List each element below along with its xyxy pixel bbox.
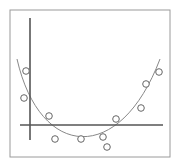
data-points	[21, 68, 163, 151]
data-point	[138, 105, 145, 112]
data-point	[52, 136, 59, 143]
data-point	[113, 116, 120, 123]
data-point	[143, 81, 150, 88]
data-point	[156, 69, 163, 76]
data-point	[104, 144, 111, 151]
data-point	[78, 136, 85, 143]
data-point	[100, 134, 107, 141]
data-point	[23, 68, 30, 75]
scatter-chart	[0, 0, 177, 164]
data-point	[21, 95, 28, 102]
data-point	[46, 113, 53, 120]
